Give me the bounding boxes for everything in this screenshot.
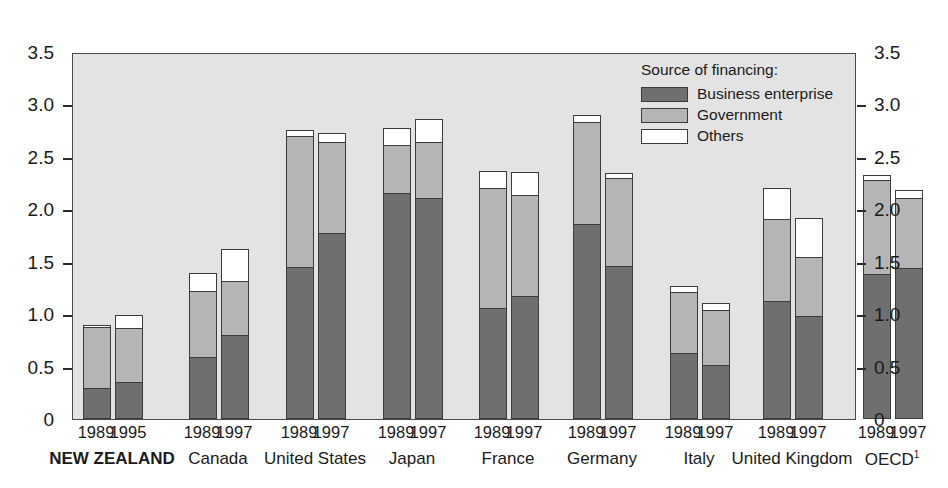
bar-stack[interactable] (83, 326, 111, 419)
bar-segment-government[interactable] (795, 257, 823, 318)
bar-segment-business[interactable] (863, 274, 891, 419)
bar-segment-government[interactable] (286, 136, 314, 268)
y-axis-tick-label: 3.0 (28, 95, 54, 114)
x-axis-year-label: 1997 (594, 424, 642, 441)
y-axis-tick-label: 0.5 (28, 358, 54, 377)
y-axis-tick-label: 3.0 (874, 95, 900, 114)
bar-segment-business[interactable] (221, 335, 249, 419)
bar-segment-business[interactable] (511, 296, 539, 419)
legend-entry[interactable]: Business enterprise (641, 85, 851, 104)
bar-segment-others[interactable] (83, 325, 111, 328)
bar-stack[interactable] (221, 250, 249, 419)
bar-segment-others[interactable] (605, 173, 633, 179)
x-axis-year-label: 1997 (691, 424, 739, 441)
bar-segment-government[interactable] (670, 292, 698, 354)
x-axis-year-label: 1997 (784, 424, 832, 441)
bar-segment-others[interactable] (221, 249, 249, 281)
x-axis-year-label: 1995 (104, 424, 152, 441)
y-axis-tick (63, 158, 72, 160)
bar-stack[interactable] (670, 287, 698, 419)
legend-label: Government (697, 107, 782, 123)
bar-stack[interactable] (115, 316, 143, 419)
bar-segment-business[interactable] (115, 382, 143, 419)
bar-stack[interactable] (415, 120, 443, 419)
bar-segment-others[interactable] (415, 119, 443, 143)
bar-segment-government[interactable] (511, 195, 539, 298)
bar-segment-others[interactable] (189, 273, 217, 292)
x-axis-country-label: OECD1 (802, 450, 948, 468)
bar-segment-government[interactable] (189, 291, 217, 358)
y-axis-tick (857, 158, 866, 160)
bar-segment-others[interactable] (318, 133, 346, 143)
y-axis-tick (63, 368, 72, 370)
bar-segment-business[interactable] (318, 233, 346, 419)
bar-segment-business[interactable] (83, 388, 111, 419)
x-axis-year-label: 1997 (884, 424, 932, 441)
bar-segment-business[interactable] (795, 316, 823, 419)
y-axis-tick-label: 2.5 (28, 148, 54, 167)
y-axis-tick-label: 0.5 (874, 358, 900, 377)
bar-segment-business[interactable] (415, 198, 443, 419)
footnote-marker: 1 (914, 449, 920, 460)
legend-entries: Business enterpriseGovernmentOthers (641, 85, 851, 146)
y-axis-tick-label: 1.0 (874, 305, 900, 324)
bar-stack[interactable] (763, 189, 791, 419)
bar-segment-others[interactable] (573, 115, 601, 123)
bar-segment-government[interactable] (605, 178, 633, 267)
bar-segment-government[interactable] (763, 219, 791, 302)
bar-segment-others[interactable] (511, 172, 539, 196)
bar-segment-others[interactable] (286, 130, 314, 137)
bar-segment-others[interactable] (702, 303, 730, 311)
bar-segment-government[interactable] (702, 310, 730, 366)
bar-stack[interactable] (286, 131, 314, 419)
bar-stack[interactable] (795, 219, 823, 419)
bar-segment-government[interactable] (383, 145, 411, 193)
x-axis-year-label: 1997 (210, 424, 258, 441)
x-axis-year-label: 1997 (307, 424, 355, 441)
y-axis-tick (63, 315, 72, 317)
bar-segment-business[interactable] (763, 301, 791, 419)
bar-stack[interactable] (573, 116, 601, 419)
bar-stack[interactable] (318, 134, 346, 419)
y-axis-tick (857, 105, 866, 107)
bar-segment-business[interactable] (702, 365, 730, 419)
bar-segment-others[interactable] (895, 190, 923, 198)
legend-swatch-business (641, 87, 688, 102)
bar-stack[interactable] (605, 174, 633, 419)
bar-segment-others[interactable] (479, 171, 507, 190)
bar-segment-others[interactable] (115, 315, 143, 329)
y-axis-tick (857, 210, 866, 212)
y-axis-tick-label: 1.5 (874, 253, 900, 272)
legend-entry[interactable]: Others (641, 127, 851, 146)
bar-stack[interactable] (189, 274, 217, 419)
bar-segment-government[interactable] (573, 122, 601, 225)
bar-segment-business[interactable] (670, 353, 698, 419)
bar-stack[interactable] (511, 173, 539, 419)
bar-segment-business[interactable] (895, 268, 923, 419)
bar-segment-others[interactable] (670, 286, 698, 293)
bar-segment-business[interactable] (383, 193, 411, 419)
y-axis-tick-label: 2.0 (28, 200, 54, 219)
bar-segment-business[interactable] (189, 357, 217, 419)
bar-segment-business[interactable] (286, 267, 314, 419)
bar-stack[interactable] (479, 172, 507, 419)
bar-segment-business[interactable] (573, 224, 601, 419)
bar-segment-government[interactable] (83, 327, 111, 389)
legend-entry[interactable]: Government (641, 106, 851, 125)
bar-segment-government[interactable] (318, 142, 346, 234)
bar-segment-business[interactable] (479, 308, 507, 419)
bar-stack[interactable] (383, 129, 411, 419)
bar-segment-government[interactable] (221, 281, 249, 337)
bar-segment-others[interactable] (763, 188, 791, 219)
y-axis-tick-label: 1.5 (28, 253, 54, 272)
bar-segment-government[interactable] (115, 328, 143, 384)
bar-segment-others[interactable] (863, 175, 891, 181)
bar-segment-others[interactable] (383, 128, 411, 147)
bar-segment-government[interactable] (479, 188, 507, 309)
bar-segment-others[interactable] (795, 218, 823, 258)
bar-segment-business[interactable] (605, 266, 633, 419)
bar-stack[interactable] (702, 304, 730, 419)
bar-segment-government[interactable] (415, 142, 443, 199)
x-axis-year-label: 1997 (500, 424, 548, 441)
y-axis-tick-label: 2.5 (874, 148, 900, 167)
